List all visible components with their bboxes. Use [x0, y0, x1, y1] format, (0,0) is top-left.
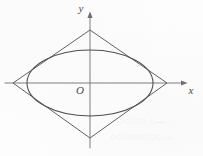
axes-group [5, 12, 188, 149]
y-axis-label: y [78, 2, 84, 14]
origin-label: O [76, 84, 84, 96]
axis-labels-group: y x O [76, 2, 194, 96]
x-axis-label: x [188, 84, 194, 96]
coordinate-diagram-canvas: y x O [0, 0, 203, 156]
y-axis-arrowhead [87, 12, 92, 19]
geometry-figure: y x O —◌ ◌◌◌◌◌ ◌◌◌◌◌◌◌◌◌◌◌ [0, 0, 203, 156]
x-axis-arrowhead [181, 80, 188, 85]
